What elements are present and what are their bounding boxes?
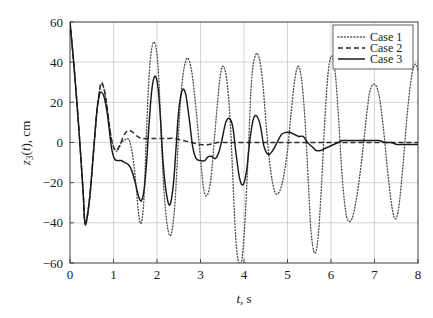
y-tick-label: 20 <box>50 95 63 110</box>
x-tick-label: 1 <box>110 267 117 282</box>
y-tick-label: −40 <box>43 215 63 230</box>
y-tick-label: −20 <box>43 175 63 190</box>
legend-label-case-3: Case 3 <box>370 52 402 66</box>
svg-text:t, s: t, s <box>236 291 251 306</box>
legend: Case 1 Case 2 Case 3 <box>333 25 413 69</box>
x-tick-label: 6 <box>328 267 335 282</box>
y-tick-label: 0 <box>57 135 64 150</box>
chart-figure: 012345678 −60−40−200204060 t, s z3(t), c… <box>0 0 433 318</box>
x-tick-label: 4 <box>241 267 248 282</box>
y-tick-label: −60 <box>43 256 63 271</box>
x-tick-label: 8 <box>415 267 422 282</box>
x-tick-label: 7 <box>371 267 378 282</box>
y-tick-label: 40 <box>50 55 63 70</box>
line-chart: 012345678 −60−40−200204060 t, s z3(t), c… <box>0 0 433 318</box>
x-axis-title: t, s <box>236 291 251 306</box>
x-tick-label: 3 <box>197 267 204 282</box>
y-tick-label: 60 <box>50 15 63 30</box>
x-tick-label: 5 <box>284 267 291 282</box>
x-tick-label: 0 <box>67 267 74 282</box>
x-tick-label: 2 <box>154 267 161 282</box>
